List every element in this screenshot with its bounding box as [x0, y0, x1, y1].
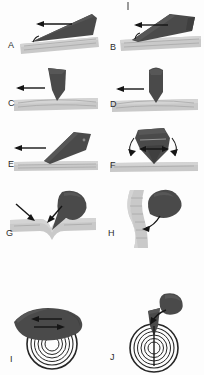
panel-b: B: [102, 4, 204, 60]
panel-j: J: [102, 292, 204, 375]
tool-c: [48, 68, 66, 101]
tool-i-mass: [14, 308, 82, 340]
substrate-e: [14, 161, 98, 171]
panel-h: H: [102, 188, 204, 250]
panel-label-h: H: [108, 228, 115, 238]
arrow-c-left: [16, 85, 45, 91]
substrate-a: [20, 37, 99, 54]
rotation-arrow-f-left: [128, 138, 136, 156]
substrate-b: [120, 36, 201, 51]
tool-d: [149, 68, 163, 104]
panel-label-a: A: [8, 40, 14, 50]
panel-label-e: E: [8, 159, 14, 169]
panel-label-j: J: [110, 352, 115, 362]
panel-label-i: I: [10, 354, 13, 364]
arrow-d-left: [116, 86, 144, 92]
panel-d: D: [102, 58, 204, 116]
tool-f: [135, 128, 170, 164]
rotation-arrow-f-right: [170, 138, 178, 156]
substrate-c: [14, 98, 98, 111]
tool-e: [44, 132, 91, 164]
panel-g: G: [0, 188, 102, 250]
panel-i: I: [0, 292, 102, 375]
panel-label-f: F: [110, 160, 116, 170]
tool-j-blade: [148, 308, 160, 366]
tool-a: [31, 14, 97, 42]
panel-a: A: [0, 4, 102, 60]
panel-label-b: B: [110, 42, 116, 52]
arrow-g-left: [16, 204, 35, 221]
tool-h-blob: [148, 190, 182, 218]
panel-f: F: [102, 118, 204, 178]
arrow-e-left: [14, 145, 46, 151]
figure-canvas: A B: [0, 0, 204, 375]
substrate-h: [127, 190, 148, 248]
panel-label-d: D: [110, 99, 117, 109]
panel-c: C: [0, 58, 102, 116]
panel-label-c: C: [8, 98, 15, 108]
panel-e: E: [0, 120, 102, 178]
panel-label-g: G: [6, 228, 13, 238]
